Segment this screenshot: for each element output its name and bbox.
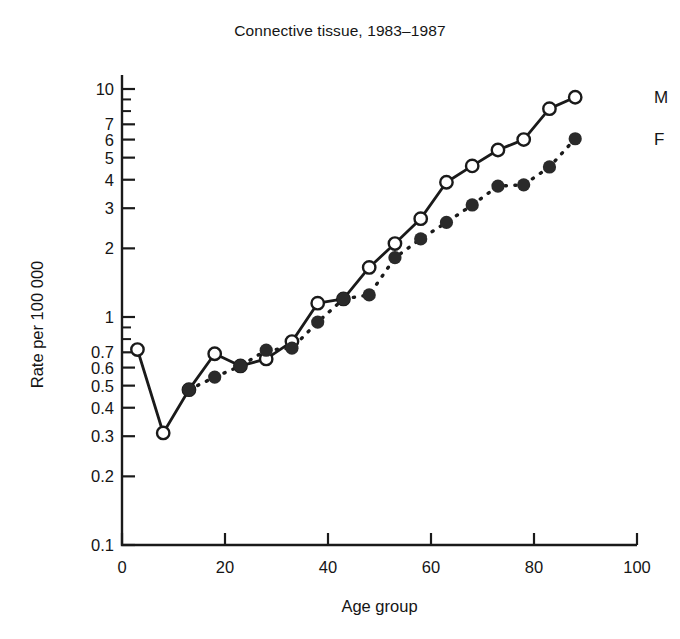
data-point-f (517, 178, 530, 191)
data-point-f (440, 216, 453, 229)
data-point-f (208, 371, 221, 384)
data-point-f (182, 383, 195, 396)
chart-legend: MF (654, 88, 668, 149)
data-point-m (312, 297, 324, 309)
data-point-m (440, 176, 452, 188)
series-line-m (137, 97, 575, 433)
data-point-m (389, 237, 401, 249)
y-tick-label: 2 (105, 239, 114, 257)
y-tick-label: 0.1 (91, 536, 114, 554)
x-tick-label: 40 (319, 558, 337, 576)
y-tick-label: 0.5 (91, 377, 114, 395)
x-tick-label: 60 (422, 558, 440, 576)
x-tick-label: 100 (623, 558, 651, 576)
data-point-f (337, 292, 350, 305)
data-point-m (363, 261, 375, 273)
data-point-f (466, 198, 479, 211)
y-tick-label: 0.3 (91, 427, 114, 445)
data-point-f (569, 132, 582, 145)
figure: Connective tissue, 1983–1987 Rate per 10… (0, 0, 680, 639)
data-point-f (234, 359, 247, 372)
data-point-m (518, 133, 530, 145)
data-point-m (157, 427, 169, 439)
y-tick-label: 7 (105, 115, 114, 133)
legend-label-m: M (654, 88, 668, 107)
series-line-f (189, 139, 575, 390)
y-tick-label: 0.2 (91, 467, 114, 485)
data-point-f (285, 342, 298, 355)
data-point-m (569, 91, 581, 103)
x-axis-ticks: 020406080100 (117, 533, 650, 576)
data-point-f (491, 180, 504, 193)
data-point-f (363, 288, 376, 301)
data-point-f (388, 251, 401, 264)
data-point-m (466, 160, 478, 172)
data-series-group (131, 91, 582, 439)
data-point-f (311, 315, 324, 328)
data-point-f (543, 160, 556, 173)
data-point-f (414, 232, 427, 245)
x-tick-label: 80 (525, 558, 543, 576)
data-point-m (209, 348, 221, 360)
legend-label-f: F (654, 130, 664, 149)
x-tick-label: 20 (216, 558, 234, 576)
data-point-m (492, 144, 504, 156)
axis-group (122, 75, 637, 545)
y-tick-label: 5 (105, 149, 114, 167)
y-tick-label: 0.4 (91, 399, 114, 417)
x-tick-label: 0 (117, 558, 126, 576)
y-tick-label: 1 (105, 308, 114, 326)
y-tick-label: 10 (96, 80, 114, 98)
data-point-m (415, 212, 427, 224)
y-tick-label: 3 (105, 199, 114, 217)
plot-area: 0.10.20.30.40.50.60.7123456710 020406080… (0, 0, 680, 639)
y-tick-label: 0.7 (91, 343, 114, 361)
y-tick-label: 4 (105, 171, 114, 189)
data-point-m (131, 343, 143, 355)
y-axis-ticks: 0.10.20.30.40.50.60.7123456710 (91, 80, 135, 554)
data-point-m (543, 102, 555, 114)
data-point-f (260, 344, 273, 357)
